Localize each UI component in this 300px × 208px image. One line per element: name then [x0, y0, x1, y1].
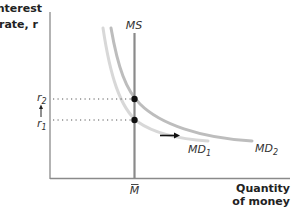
r1-label: r1 [37, 117, 47, 132]
md2-curve [111, 28, 252, 141]
x-axis-title-line2: of money [232, 195, 290, 208]
equilibrium-point-r2 [131, 96, 137, 102]
md1-label: MD1 [188, 143, 211, 158]
rate-increase-arrow-icon [39, 105, 43, 118]
x-axis-title-line1: Quantity [236, 182, 290, 195]
md2-label: MD2 [255, 142, 278, 157]
money-supply-label: MS [126, 19, 142, 32]
md1-curve [103, 28, 208, 141]
r2-label: r2 [37, 91, 47, 106]
y-axis-title-line2: rate, r [0, 18, 39, 31]
m-bar-label: M [130, 184, 140, 197]
money-market-diagram: Interest rate, r Quantity of money MS MD… [0, 0, 300, 208]
equilibrium-point-r1 [131, 117, 137, 123]
y-axis-title-line1: Interest [0, 2, 42, 15]
